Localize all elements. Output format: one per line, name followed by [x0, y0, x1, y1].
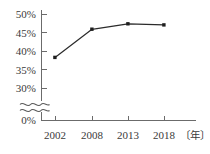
data-point-2013	[126, 22, 129, 25]
x-axis-tick-marks	[56, 116, 165, 121]
line-chart: 50% 45% 40% 35% 30% 0%	[0, 0, 210, 154]
series-line-path	[55, 24, 164, 58]
axis-break-squiggle	[20, 103, 50, 111]
y-tick-label-45: 45%	[16, 27, 36, 39]
x-tick-label-2018: 2018	[153, 129, 176, 141]
data-point-2002	[53, 56, 56, 59]
y-axis-labels: 50% 45% 40% 35% 30% 0%	[16, 8, 36, 126]
x-tick-label-2013: 2013	[117, 129, 140, 141]
x-axis-unit-label: 〔年〕	[180, 129, 210, 141]
y-tick-label-50: 50%	[16, 8, 36, 20]
data-point-2008	[90, 28, 93, 31]
y-tick-label-0: 0%	[21, 114, 36, 126]
y-tick-label-40: 40%	[16, 45, 36, 57]
x-tick-label-2008: 2008	[81, 129, 104, 141]
data-point-2018	[162, 23, 165, 26]
series-markers	[53, 22, 165, 59]
y-axis-tick-marks	[42, 14, 47, 88]
x-tick-label-2002: 2002	[44, 129, 66, 141]
y-tick-label-30: 30%	[16, 82, 36, 94]
y-tick-label-35: 35%	[16, 64, 36, 76]
x-axis-labels: 2002 2008 2013 2018 〔年〕	[44, 129, 210, 141]
chart-canvas: 50% 45% 40% 35% 30% 0%	[0, 0, 210, 154]
